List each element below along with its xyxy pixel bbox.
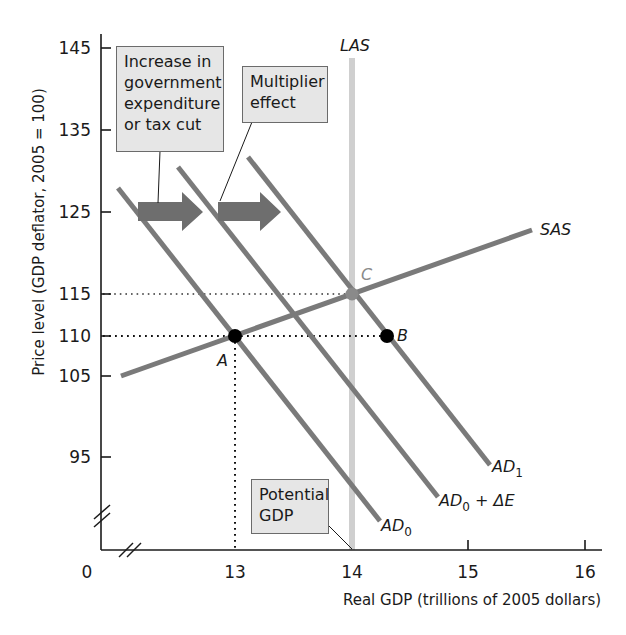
callout-leader [158,151,160,203]
x-ticks [468,540,585,550]
note-line: government [124,72,216,93]
ad1-label: AD1 [491,457,523,480]
note-line: Potential [259,484,321,505]
svg-text:95: 95 [69,447,91,467]
arrow-right-icon [218,192,281,231]
y-ticks [101,48,111,457]
svg-text:135: 135 [59,120,91,140]
note-line: expenditure [124,93,216,114]
point-b-label: B [397,326,408,345]
ad0-plus-delta-e-label: AD0 + ΔE [438,491,515,514]
svg-text:0: 0 [82,562,93,582]
svg-text:16: 16 [574,562,596,582]
sas-label: SAS [540,220,571,239]
y-tick-labels: 145 135 125 115 110 105 95 [59,38,91,467]
y-axis-title: Price level (GDP deflator, 2005 = 100) [30,88,48,376]
note-line: Multiplier [250,71,320,92]
ad0-curve [118,188,380,521]
point-b [380,329,394,343]
note-potential-gdp: Potential GDP [251,479,329,534]
note-line: or tax cut [124,114,216,135]
note-line: Increase in [124,51,216,72]
ad0-label: AD0 [380,516,412,539]
svg-text:105: 105 [59,366,91,386]
ad1-curve [248,157,490,465]
svg-text:110: 110 [59,326,91,346]
svg-text:115: 115 [59,284,91,304]
point-a-label: A [216,351,228,370]
callout-leader [328,525,352,549]
svg-text:145: 145 [59,38,91,58]
point-a [228,329,242,343]
note-multiplier-effect: Multiplier effect [242,66,328,123]
point-c [346,288,359,301]
note-line: effect [250,92,320,113]
x-axis-title: Real GDP (trillions of 2005 dollars) [343,591,601,609]
callout-leader [220,122,252,201]
svg-text:15: 15 [457,562,479,582]
svg-text:13: 13 [224,562,246,582]
x-tick-labels: 0 13 14 15 16 [82,562,596,582]
note-line: GDP [259,505,321,526]
las-label: LAS [340,36,370,55]
point-c-label: C [361,265,373,284]
svg-text:125: 125 [59,202,91,222]
svg-text:14: 14 [341,562,363,582]
note-increase-government-expenditure: Increase in government expenditure or ta… [116,46,224,152]
